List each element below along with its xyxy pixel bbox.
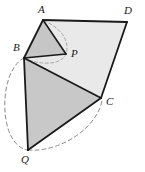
vertex-label-a: A <box>38 4 45 15</box>
vertex-label-d: D <box>124 5 132 16</box>
vertex-label-q: Q <box>21 154 29 165</box>
vertex-label-b: B <box>13 42 20 53</box>
figure-canvas <box>0 0 145 172</box>
geometry-figure: A B C D P Q <box>0 0 145 172</box>
vertex-label-p: P <box>71 48 78 59</box>
vertex-label-c: C <box>106 96 113 107</box>
